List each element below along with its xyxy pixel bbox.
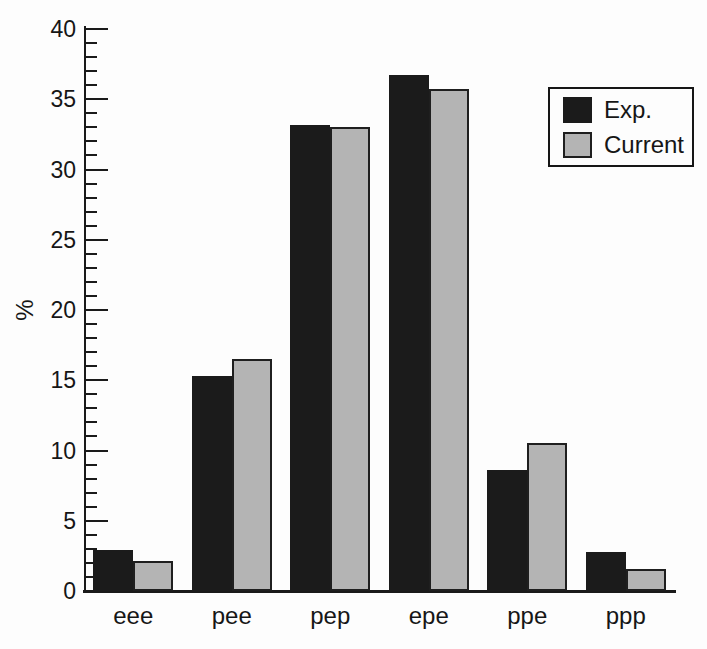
- x-category-label-ppe: ppe: [478, 602, 576, 630]
- y-minor-tick: [86, 534, 97, 536]
- y-minor-tick: [86, 421, 97, 423]
- y-minor-tick: [86, 225, 97, 227]
- y-minor-tick: [86, 267, 97, 269]
- y-minor-tick: [86, 112, 97, 114]
- bar-pep-current: [330, 127, 370, 591]
- legend-label-current: Current: [604, 131, 684, 159]
- y-minor-tick: [86, 478, 97, 480]
- y-minor-tick: [86, 464, 97, 466]
- y-minor-tick: [86, 407, 97, 409]
- y-tick-label: 5: [30, 510, 76, 533]
- y-major-tick: [86, 520, 108, 522]
- bar-ppp-current: [626, 569, 666, 591]
- y-minor-tick: [86, 211, 97, 213]
- legend-swatch-current: [563, 132, 592, 158]
- y-minor-tick: [86, 126, 97, 128]
- bar-eee-current: [133, 561, 173, 591]
- y-minor-tick: [86, 183, 97, 185]
- y-minor-tick: [86, 323, 97, 325]
- bar-ppe-current: [527, 443, 567, 591]
- y-minor-tick: [86, 84, 97, 86]
- bar-epe-current: [429, 89, 469, 591]
- legend: Exp. Current: [548, 87, 694, 167]
- y-tick-label: 25: [30, 229, 76, 252]
- y-tick-label: 40: [30, 18, 76, 41]
- y-minor-tick: [86, 393, 97, 395]
- x-category-label-epe: epe: [380, 602, 478, 630]
- bar-ppp-exp: [586, 552, 626, 591]
- y-major-tick: [86, 169, 108, 171]
- bar-epe-exp: [389, 75, 429, 591]
- legend-swatch-exp: [563, 97, 592, 123]
- bar-pee-current: [232, 359, 272, 591]
- y-minor-tick: [86, 197, 97, 199]
- y-minor-tick: [86, 281, 97, 283]
- y-tick-label: 15: [30, 369, 76, 392]
- x-category-label-eee: eee: [84, 602, 182, 630]
- x-category-label-pep: pep: [281, 602, 379, 630]
- x-category-label-pee: pee: [183, 602, 281, 630]
- legend-item-current: Current: [563, 131, 692, 159]
- y-minor-tick: [86, 492, 97, 494]
- y-tick-label: 10: [30, 440, 76, 463]
- y-minor-tick: [86, 253, 97, 255]
- y-major-tick: [86, 450, 108, 452]
- y-minor-tick: [86, 42, 97, 44]
- x-category-label-ppp: ppp: [577, 602, 675, 630]
- y-major-tick: [86, 379, 108, 381]
- y-minor-tick: [86, 70, 97, 72]
- y-major-tick: [86, 309, 108, 311]
- y-minor-tick: [86, 435, 97, 437]
- legend-label-exp: Exp.: [604, 96, 652, 124]
- y-axis-title: %: [11, 299, 39, 320]
- y-minor-tick: [86, 365, 97, 367]
- bar-chart-figure: 0510152025303540 eeepeepepepeppeppp % Ex…: [0, 0, 707, 649]
- bar-ppe-exp: [487, 470, 527, 591]
- y-minor-tick: [86, 295, 97, 297]
- y-major-tick: [86, 239, 108, 241]
- bar-eee-exp: [93, 550, 133, 591]
- y-major-tick: [86, 28, 108, 30]
- y-major-tick: [86, 98, 108, 100]
- y-minor-tick: [86, 154, 97, 156]
- y-minor-tick: [86, 337, 97, 339]
- legend-item-exp: Exp.: [563, 96, 692, 124]
- y-tick-label: 0: [30, 580, 76, 603]
- y-minor-tick: [86, 506, 97, 508]
- bar-pee-exp: [192, 376, 232, 591]
- y-minor-tick: [86, 351, 97, 353]
- y-tick-label: 30: [30, 159, 76, 182]
- y-minor-tick: [86, 140, 97, 142]
- y-tick-label: 35: [30, 88, 76, 111]
- bar-pep-exp: [290, 125, 330, 591]
- y-minor-tick: [86, 56, 97, 58]
